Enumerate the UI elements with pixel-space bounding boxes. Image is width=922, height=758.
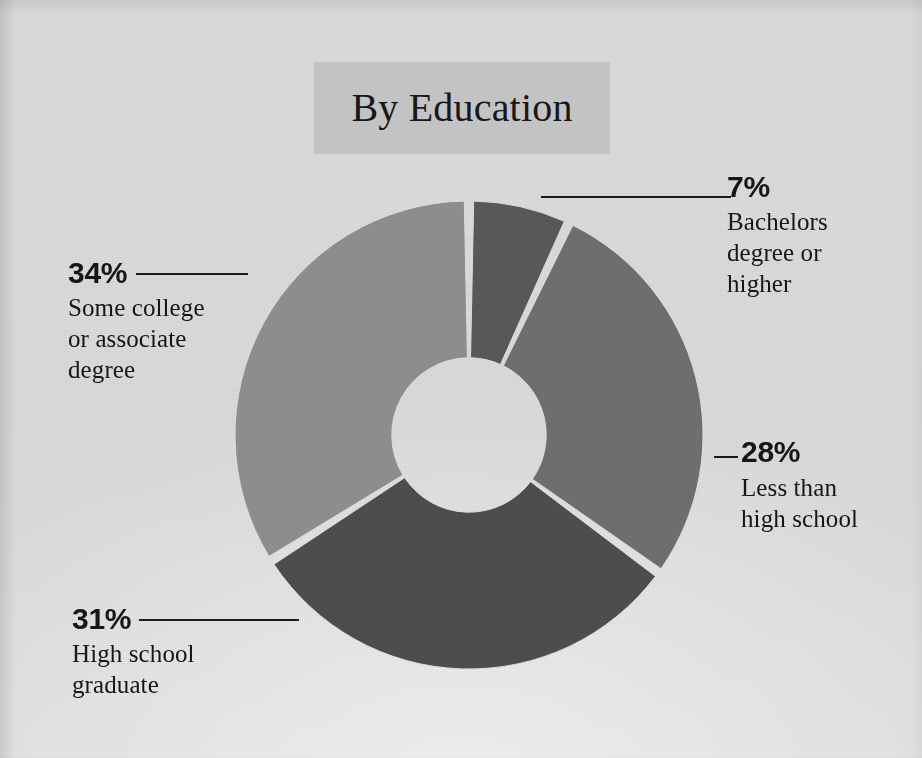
callout-label-some-college: Some college or associate degree: [68, 292, 268, 385]
callout-label-less-than-high-school: Less than high school: [741, 472, 921, 534]
callout-label-line: graduate: [72, 669, 282, 700]
callout-label-line: Less than: [741, 472, 921, 503]
page-title: By Education: [314, 62, 610, 154]
donut-chart-svg: [232, 198, 706, 672]
callout-high-school-graduate: 31% High school graduate: [72, 604, 282, 700]
leader-line-bachelors: [541, 196, 731, 198]
callout-value-some-college: 34%: [68, 258, 268, 288]
callout-value-bachelors: 7%: [727, 172, 917, 202]
callout-label-high-school-graduate: High school graduate: [72, 638, 282, 700]
callout-label-line: degree or: [727, 237, 917, 268]
callout-label-line: degree: [68, 354, 268, 385]
callout-label-line: high school: [741, 503, 921, 534]
callout-label-line: or associate: [68, 323, 268, 354]
donut-slice-group: [235, 201, 703, 669]
callout-value-less-than-high-school: 28%: [741, 437, 921, 467]
callout-label-bachelors: Bachelors degree or higher: [727, 206, 917, 299]
leader-line-less-than-high-school: [714, 456, 738, 458]
callout-label-line: Some college: [68, 292, 268, 323]
donut-chart: [232, 198, 706, 672]
callout-label-line: higher: [727, 268, 917, 299]
callout-value-high-school-graduate: 31%: [72, 604, 282, 634]
callout-label-line: Bachelors: [727, 206, 917, 237]
callout-some-college: 34% Some college or associate degree: [68, 258, 268, 385]
callout-less-than-high-school: 28% Less than high school: [741, 437, 921, 534]
chart-page: By Education 7% Bachelors degree or high…: [0, 0, 922, 758]
callout-label-line: High school: [72, 638, 282, 669]
callout-bachelors: 7% Bachelors degree or higher: [727, 172, 917, 299]
